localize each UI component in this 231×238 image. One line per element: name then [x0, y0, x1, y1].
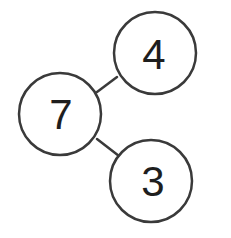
part-node-top: 4 [114, 12, 196, 94]
whole-node: 7 [19, 73, 101, 155]
number-bond-diagram: 7 4 3 [0, 0, 231, 238]
connector-whole-to-part-3 [97, 139, 119, 156]
connector-whole-to-part-4 [97, 77, 117, 92]
part-node-bottom: 3 [110, 140, 192, 222]
part-value-bottom: 3 [141, 158, 164, 205]
whole-value: 7 [49, 91, 72, 138]
part-value-top: 4 [142, 31, 165, 78]
